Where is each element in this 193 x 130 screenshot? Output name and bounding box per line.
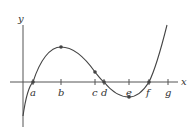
label-e: e bbox=[126, 87, 132, 98]
point-f bbox=[147, 80, 151, 84]
point-a bbox=[31, 80, 35, 84]
point-d bbox=[102, 80, 106, 84]
label-d: d bbox=[101, 87, 107, 98]
y-axis-label: y bbox=[17, 13, 24, 24]
label-a: a bbox=[30, 87, 36, 98]
label-f: f bbox=[145, 87, 152, 98]
x-axis-label: x bbox=[181, 76, 187, 87]
point-b bbox=[59, 45, 63, 49]
point-c bbox=[93, 70, 97, 74]
function-graph: x y abcdefg bbox=[0, 0, 193, 130]
label-c: c bbox=[92, 87, 98, 98]
label-g: g bbox=[165, 87, 171, 98]
label-b: b bbox=[58, 87, 64, 98]
